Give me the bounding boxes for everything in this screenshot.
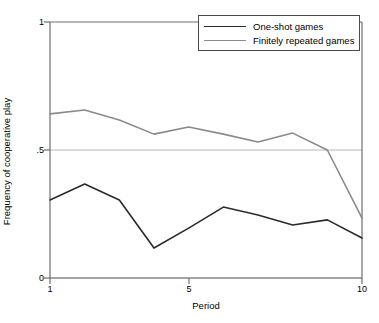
legend-item-one-shot-games: One-shot games [199, 19, 359, 33]
chart-legend: One-shot games Finitely repeated games [198, 15, 360, 51]
legend-label-finitely-repeated-games: Finitely repeated games [253, 35, 354, 46]
series-line-one-shot-games [50, 184, 362, 248]
legend-label-one-shot-games: One-shot games [253, 21, 323, 32]
legend-swatch-finitely-repeated-games [204, 40, 246, 41]
legend-swatch-one-shot-games [204, 26, 246, 27]
series-line-finitely-repeated-games [50, 110, 362, 218]
chart-figure: Frequency of cooperative play Period 1 .… [0, 0, 379, 323]
legend-item-finitely-repeated-games: Finitely repeated games [199, 33, 359, 47]
